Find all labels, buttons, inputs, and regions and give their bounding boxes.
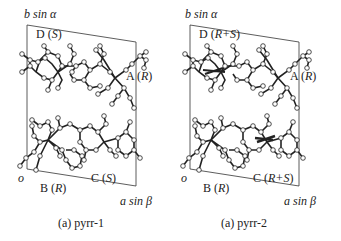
axis-label-a-sin-beta: a sin β (284, 195, 316, 207)
molecule-label-a: A (R) (126, 70, 152, 82)
axis-text: b sin α (24, 7, 56, 21)
molecule-letter: B (40, 181, 48, 195)
origin-label: o (18, 172, 24, 184)
axis-text: b sin α (185, 7, 217, 21)
molecule-label-a: A (R) (290, 70, 316, 82)
origin-label: o (181, 172, 187, 184)
molecule-letter: D (199, 27, 208, 41)
molecule-label-d: D (R+S) (199, 28, 240, 40)
molecule-config: R+S (215, 27, 236, 41)
molecule-label-b: B (R) (203, 182, 229, 194)
molecule-config: S (106, 171, 112, 185)
molecule-config: R+S (268, 171, 289, 185)
molecule-letter: A (126, 69, 134, 83)
molecule-letter: A (290, 69, 298, 83)
panel-pyrr-2: b sin α D (R+S) A (R) o B (R) C (R+S) a … (163, 0, 333, 241)
molecule-label-b: B (R) (40, 182, 66, 194)
axis-label-a-sin-beta: a sin β (120, 195, 152, 207)
molecule-config: R (305, 69, 312, 83)
origin-text: o (181, 171, 187, 185)
molecule-config: R (55, 181, 62, 195)
axis-text: a sin β (284, 194, 316, 208)
molecule-config: S (52, 27, 58, 41)
panel-caption: (a) pyrr-2 (221, 217, 267, 229)
molecule-letter: B (203, 181, 211, 195)
panel-caption: (a) pyrr-1 (58, 217, 104, 229)
molecule-letter: C (253, 171, 261, 185)
axis-label-b-sin-alpha: b sin α (185, 8, 217, 20)
molecule-letter: D (36, 27, 45, 41)
axis-label-b-sin-alpha: b sin α (24, 8, 56, 20)
molecule-label-d: D (S) (36, 28, 62, 40)
molecule-config: R (218, 181, 225, 195)
molecule-label-c: C (S) (91, 172, 116, 184)
axis-text: a sin β (120, 194, 152, 208)
origin-text: o (18, 171, 24, 185)
molecule-config: R (141, 69, 148, 83)
panel-pyrr-1: b sin α D (S) A (R) o B (R) C (S) a sin … (0, 0, 170, 241)
molecule-label-c: C (R+S) (253, 172, 293, 184)
molecule-letter: C (91, 171, 99, 185)
